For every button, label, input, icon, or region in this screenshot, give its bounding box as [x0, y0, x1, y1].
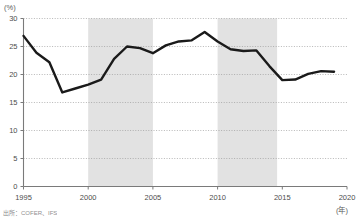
y-tick-label-5: 5 — [0, 154, 18, 163]
x-axis-unit-label: (年) — [336, 204, 348, 215]
y-tick-label-20: 20 — [0, 70, 18, 79]
y-tick-label-10: 10 — [0, 126, 18, 135]
axis-ticks-layer — [21, 19, 348, 190]
x-tick-label-2020: 2020 — [327, 193, 364, 202]
chart-plot-area — [0, 0, 364, 218]
y-tick-label-15: 15 — [0, 98, 18, 107]
y-tick-label-30: 30 — [0, 14, 18, 23]
y-tick-label-0: 0 — [0, 182, 18, 191]
x-tick-label-1995: 1995 — [4, 193, 44, 202]
x-tick-label-2000: 2000 — [68, 193, 108, 202]
chart-figure: (%) 051015202530 19952000200520102015202… — [0, 0, 364, 218]
x-tick-label-2015: 2015 — [262, 193, 302, 202]
x-tick-label-2005: 2005 — [133, 193, 173, 202]
data-series-layer — [24, 32, 335, 92]
y-tick-label-25: 25 — [0, 42, 18, 51]
y-axis-unit-label: (%) — [4, 3, 16, 12]
series-line-ratio — [24, 32, 335, 92]
x-tick-label-2010: 2010 — [198, 193, 238, 202]
source-note: 出所：COFER、IFS — [3, 208, 57, 217]
